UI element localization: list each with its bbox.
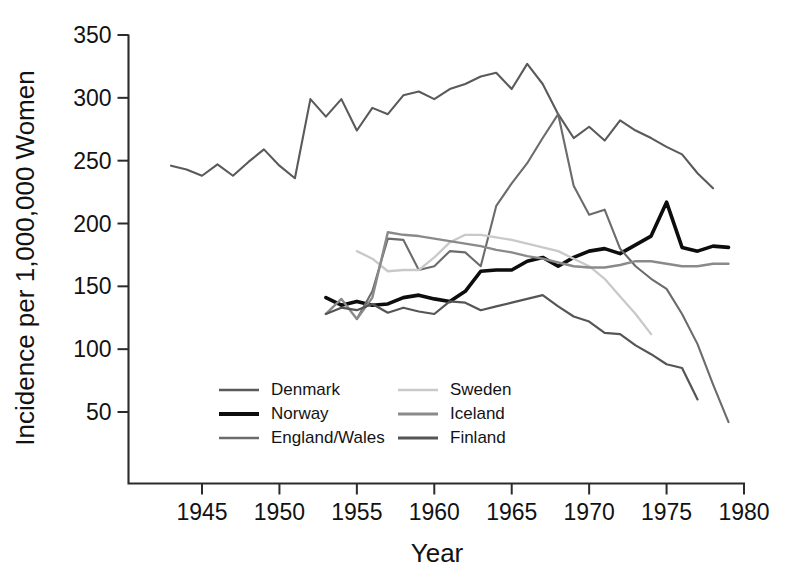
axis-spines: [129, 36, 745, 484]
y-tick-label: 350: [73, 22, 111, 48]
y-tick-label: 200: [73, 211, 111, 237]
legend-label-denmark: Denmark: [271, 380, 340, 399]
y-tick-label: 250: [73, 148, 111, 174]
y-tick-label: 150: [73, 273, 111, 299]
y-tick-label: 50: [86, 399, 112, 425]
legend-label-sweden: Sweden: [450, 380, 511, 399]
series-lines: [171, 64, 728, 422]
chart-container: Incidence per 1,000,000 Women Year 50100…: [0, 0, 797, 581]
x-tick-label: 1950: [254, 499, 305, 525]
x-tick-label: 1955: [331, 499, 382, 525]
x-tick-label: 1965: [486, 499, 537, 525]
x-tick-label: 1980: [718, 499, 769, 525]
x-tick-label: 1945: [176, 499, 227, 525]
legend-label-norway: Norway: [271, 404, 329, 423]
series-line-denmark: [171, 64, 713, 188]
legend-label-iceland: Iceland: [450, 404, 505, 423]
x-tick-label: 1960: [409, 499, 460, 525]
incidence-line-chart: Incidence per 1,000,000 Women Year 50100…: [0, 0, 797, 581]
x-tick-label: 1975: [641, 499, 692, 525]
y-axis-ticks: 50100150200250300350: [73, 22, 128, 425]
y-axis-title: Incidence per 1,000,000 Women: [10, 70, 40, 445]
legend-label-finland: Finland: [450, 428, 506, 447]
series-line-england-wales: [357, 114, 729, 422]
series-line-finland: [326, 295, 698, 399]
y-tick-label: 100: [73, 336, 111, 362]
x-axis-title: Year: [411, 538, 464, 568]
x-tick-label: 1970: [564, 499, 615, 525]
x-axis-ticks: 19451950195519601965197019751980: [176, 484, 769, 525]
chart-legend: DenmarkNorwayEngland/WalesSwedenIcelandF…: [219, 380, 511, 447]
y-tick-label: 300: [73, 85, 111, 111]
legend-label-england-wales: England/Wales: [271, 428, 385, 447]
